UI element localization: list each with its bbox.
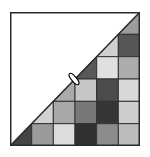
grid-cell[interactable] <box>118 101 140 123</box>
grid-cell[interactable] <box>118 79 140 101</box>
grid-cell[interactable] <box>97 79 119 101</box>
puzzle-grid[interactable] <box>10 12 140 146</box>
grid-cell[interactable] <box>97 101 119 123</box>
grid-cell[interactable] <box>118 34 140 56</box>
grid-cell[interactable] <box>53 124 75 146</box>
grid-cell[interactable] <box>75 79 97 101</box>
grid-cell[interactable] <box>75 124 97 146</box>
grid-cell[interactable] <box>97 57 119 79</box>
grid-cell[interactable] <box>97 124 119 146</box>
grid-cell[interactable] <box>118 57 140 79</box>
grid-cell[interactable] <box>53 101 75 123</box>
grid-cell[interactable] <box>32 124 54 146</box>
puzzle-board[interactable] <box>10 12 140 146</box>
grid-cell[interactable] <box>118 124 140 146</box>
grid-cell[interactable] <box>75 101 97 123</box>
